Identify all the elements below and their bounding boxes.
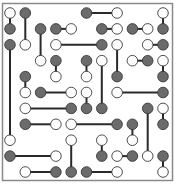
empty-dot[interactable]	[112, 87, 123, 98]
empty-dot[interactable]	[127, 55, 138, 66]
empty-dot[interactable]	[66, 87, 77, 98]
empty-dot[interactable]	[142, 151, 153, 162]
filled-dot[interactable]	[66, 167, 77, 178]
filled-dot[interactable]	[97, 151, 108, 162]
empty-dot[interactable]	[158, 103, 169, 114]
filled-dot[interactable]	[5, 24, 16, 35]
filled-dot[interactable]	[158, 119, 169, 130]
empty-dot[interactable]	[112, 167, 123, 178]
filled-dot[interactable]	[81, 55, 92, 66]
filled-dot[interactable]	[51, 167, 62, 178]
empty-dot[interactable]	[112, 8, 123, 19]
filled-dot[interactable]	[51, 55, 62, 66]
filled-dot[interactable]	[158, 24, 169, 35]
filled-dot[interactable]	[81, 103, 92, 114]
filled-dot[interactable]	[97, 103, 108, 114]
filled-dot[interactable]	[5, 151, 16, 162]
empty-dot[interactable]	[66, 119, 77, 130]
empty-dot[interactable]	[20, 167, 31, 178]
empty-dot[interactable]	[158, 8, 169, 19]
empty-dot[interactable]	[112, 151, 123, 162]
filled-dot[interactable]	[127, 151, 138, 162]
filled-dot[interactable]	[20, 8, 31, 19]
filled-dot[interactable]	[35, 24, 46, 35]
filled-dot[interactable]	[142, 103, 153, 114]
empty-dot[interactable]	[142, 24, 153, 35]
empty-dot[interactable]	[20, 103, 31, 114]
filled-dot[interactable]	[35, 87, 46, 98]
puzzle-board	[0, 0, 175, 184]
empty-dot[interactable]	[112, 40, 123, 51]
empty-dot[interactable]	[97, 55, 108, 66]
filled-dot[interactable]	[158, 87, 169, 98]
filled-dot[interactable]	[112, 71, 123, 82]
empty-dot[interactable]	[81, 87, 92, 98]
filled-dot[interactable]	[66, 103, 77, 114]
filled-dot[interactable]	[112, 119, 123, 130]
filled-dot[interactable]	[127, 119, 138, 130]
empty-dot[interactable]	[5, 135, 16, 146]
filled-dot[interactable]	[127, 24, 138, 35]
empty-dot[interactable]	[81, 71, 92, 82]
filled-dot[interactable]	[20, 71, 31, 82]
empty-dot[interactable]	[51, 119, 62, 130]
filled-dot[interactable]	[97, 24, 108, 35]
empty-dot[interactable]	[20, 40, 31, 51]
empty-dot[interactable]	[51, 40, 62, 51]
empty-dot[interactable]	[20, 87, 31, 98]
empty-dot[interactable]	[66, 24, 77, 35]
filled-dot[interactable]	[81, 8, 92, 19]
empty-dot[interactable]	[127, 135, 138, 146]
filled-dot[interactable]	[158, 40, 169, 51]
empty-dot[interactable]	[158, 55, 169, 66]
filled-dot[interactable]	[5, 40, 16, 51]
empty-dot[interactable]	[35, 55, 46, 66]
filled-dot[interactable]	[97, 40, 108, 51]
filled-dot[interactable]	[20, 119, 31, 130]
empty-dot[interactable]	[5, 8, 16, 19]
filled-dot[interactable]	[158, 71, 169, 82]
empty-dot[interactable]	[112, 24, 123, 35]
filled-dot[interactable]	[158, 151, 169, 162]
empty-dot[interactable]	[142, 40, 153, 51]
filled-dot[interactable]	[81, 167, 92, 178]
empty-dot[interactable]	[158, 167, 169, 178]
empty-dot[interactable]	[66, 135, 77, 146]
filled-dot[interactable]	[142, 55, 153, 66]
empty-dot[interactable]	[51, 151, 62, 162]
empty-dot[interactable]	[97, 135, 108, 146]
empty-dot[interactable]	[51, 71, 62, 82]
filled-dot[interactable]	[51, 24, 62, 35]
